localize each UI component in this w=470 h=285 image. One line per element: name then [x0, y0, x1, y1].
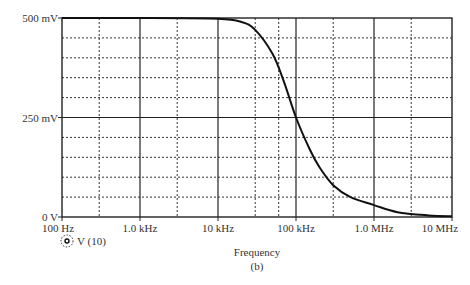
x-tick-label: 10 kHz [202, 222, 234, 234]
legend-marker-dot-icon [65, 239, 69, 243]
x-tick-label: 10 MHz [422, 222, 458, 234]
legend-marker-icon [61, 235, 73, 247]
grid [62, 18, 452, 217]
x-tick-label: 100 kHz [277, 222, 315, 234]
x-tick-label: 100 Hz [42, 222, 74, 234]
tick-labels: 0 V250 mV500 mV100 Hz1.0 kHz10 kHz100 kH… [22, 12, 458, 234]
y-tick-label: 250 mV [22, 112, 58, 124]
x-axis-title: Frequency [234, 246, 281, 258]
x-tick-label: 1.0 MHz [354, 222, 393, 234]
y-tick-label: 500 mV [22, 12, 58, 24]
x-tick-label: 1.0 kHz [123, 222, 158, 234]
figure-caption: (b) [251, 260, 264, 273]
frequency-response-chart: 0 V250 mV500 mV100 Hz1.0 kHz10 kHz100 kH… [0, 0, 470, 285]
legend-label: V (10) [77, 235, 106, 248]
legend: V (10) [61, 235, 106, 248]
